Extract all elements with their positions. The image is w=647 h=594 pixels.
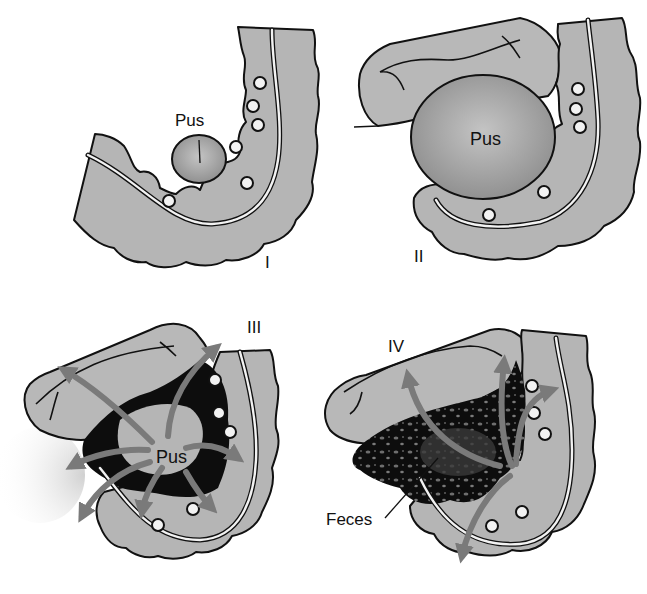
spread-haze	[0, 427, 85, 523]
diverticulum	[254, 77, 266, 89]
pus-label: Pus	[156, 447, 187, 467]
diverticulum	[230, 141, 242, 153]
panel-stage-2: Pus II	[354, 18, 640, 266]
diverticulum	[224, 426, 236, 438]
diverticulum	[570, 103, 582, 115]
diverticulum	[163, 195, 175, 207]
pus-label: Pus	[175, 111, 204, 130]
diverticulum	[516, 506, 528, 518]
diverticulum	[209, 374, 221, 386]
panel-stage-4: Feces IV	[325, 329, 595, 556]
diverticulum	[252, 119, 264, 131]
stage-label: III	[247, 318, 261, 337]
diverticulum	[187, 503, 199, 515]
diverticulum	[247, 100, 259, 112]
diverticulum	[539, 428, 551, 440]
stage-label: II	[414, 247, 423, 266]
diverticulum	[483, 209, 495, 221]
diverticulum	[241, 177, 253, 189]
diverticulum	[574, 121, 586, 133]
diverticulum	[213, 407, 225, 419]
stage-label: I	[265, 253, 270, 272]
pus-label: Pus	[470, 129, 501, 149]
feces-label: Feces	[326, 510, 372, 529]
diverticulum	[538, 186, 550, 198]
panel-stage-3: Pus III	[0, 318, 279, 559]
stage-label: IV	[388, 337, 405, 356]
diverticulum	[572, 83, 584, 95]
panel-stage-1: Pus I	[74, 27, 319, 272]
diagram-canvas: Pus I Pus II	[0, 0, 647, 594]
diverticulum	[526, 380, 538, 392]
diverticulum	[152, 519, 164, 531]
diverticulum	[486, 520, 498, 532]
